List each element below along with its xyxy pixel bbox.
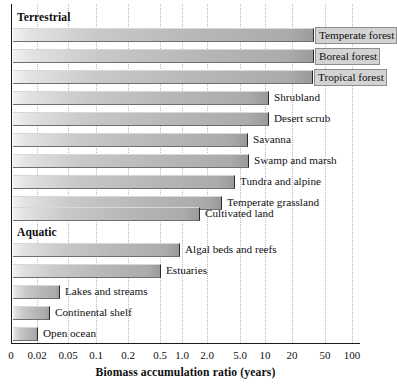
bar: [13, 91, 269, 105]
x-tick-label: 2.0: [200, 349, 214, 361]
bar: [13, 243, 180, 257]
x-tick-label: 0: [8, 349, 14, 361]
bar-label: Open ocean: [40, 326, 96, 341]
x-tick-label: 0.05: [58, 349, 77, 361]
group-heading-aquatic: Aquatic: [17, 226, 57, 238]
x-tick-label: 0.2: [121, 349, 135, 361]
bar-label: Tundra and alpine: [237, 174, 321, 189]
bar-label: Estuaries: [163, 263, 207, 278]
x-tick-label: 0.5: [153, 349, 167, 361]
bar: [13, 306, 50, 320]
bar: [13, 327, 38, 341]
x-tick-label: 100: [344, 349, 361, 361]
bar-label: Savanna: [250, 132, 291, 147]
bar-label: Algal beds and reefs: [182, 242, 277, 257]
bar-label: Desert scrub: [271, 111, 330, 126]
bar-label: Lakes and streams: [62, 284, 148, 299]
bar-label: Boreal forest: [315, 48, 380, 65]
bar-label: Tropical forest: [314, 69, 387, 86]
x-tick-label: 0.02: [27, 349, 46, 361]
x-tick-label: 50: [320, 349, 331, 361]
bar: [13, 285, 60, 299]
bar: [13, 49, 314, 63]
bar: [13, 264, 161, 278]
x-tick-label: 1.0: [175, 349, 189, 361]
x-tick-label: 10: [260, 349, 271, 361]
x-axis-title: Biomass accumulation ratio (years): [0, 366, 371, 379]
bar: [13, 70, 313, 84]
bar: [13, 175, 235, 189]
x-axis-line: [11, 343, 360, 344]
bar: [13, 28, 314, 42]
bar: [13, 207, 200, 221]
bar: [13, 154, 249, 168]
bar: [13, 133, 248, 147]
x-tick-label: 5.0: [233, 349, 247, 361]
group-heading-terrestrial: Terrestrial: [17, 11, 70, 23]
x-tick-label: 20: [287, 349, 298, 361]
bar-label: Temperate forest: [315, 27, 397, 44]
bar-label: Swamp and marsh: [251, 153, 337, 168]
bar-label: Shrubland: [271, 90, 320, 105]
y-axis-line: [11, 4, 12, 344]
bar-label: Cultivated land: [202, 206, 274, 221]
plot-area: Temperate forestBoreal forestTropical fo…: [11, 4, 371, 344]
x-tick-label: 0.1: [89, 349, 103, 361]
bar: [13, 112, 269, 126]
bar-label: Continental shelf: [52, 305, 132, 320]
